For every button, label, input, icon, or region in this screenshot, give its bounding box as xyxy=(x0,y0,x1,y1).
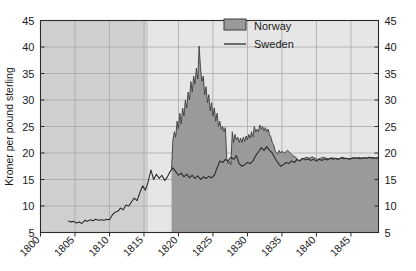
y-tick-label-right: 25 xyxy=(385,121,397,133)
legend-label-norway: Norway xyxy=(254,20,292,32)
x-tick-label: 1830 xyxy=(224,233,249,258)
y-tick-label-left: 20 xyxy=(22,147,34,159)
y-tick-label-left: 25 xyxy=(22,121,34,133)
chart-container: 51015202530354045 51015202530354045 1800… xyxy=(0,0,416,271)
x-tick-label: 1810 xyxy=(86,233,111,258)
y-tick-label-right: 20 xyxy=(385,147,397,159)
legend-label-sweden: Sweden xyxy=(254,38,294,50)
y-tick-label-right: 10 xyxy=(385,200,397,212)
y-tick-label-left: 10 xyxy=(22,200,34,212)
y-tick-label-right: 30 xyxy=(385,94,397,106)
y-tick-label-right: 35 xyxy=(385,68,397,80)
y-tick-label-left: 45 xyxy=(22,15,34,27)
y-axis-tick-labels-right: 51015202530354045 xyxy=(385,15,397,239)
y-tick-label-right: 15 xyxy=(385,174,397,186)
x-tick-label: 1820 xyxy=(155,233,180,258)
y-tick-label-left: 40 xyxy=(22,41,34,53)
y-axis-title: Kroner per pound sterling xyxy=(3,67,15,186)
x-tick-label: 1805 xyxy=(51,233,76,258)
y-tick-label-left: 30 xyxy=(22,94,34,106)
x-axis-tick-labels: 1800180518101815182018251830183518401845 xyxy=(17,233,353,258)
norway-legend-swatch xyxy=(224,19,246,30)
x-tick-label: 1815 xyxy=(120,233,145,258)
x-tick-label: 1845 xyxy=(327,233,352,258)
x-tick-label: 1825 xyxy=(189,233,214,258)
y-tick-label-left: 15 xyxy=(22,174,34,186)
chart-figure: 51015202530354045 51015202530354045 1800… xyxy=(0,0,416,271)
x-tick-label: 1840 xyxy=(293,233,318,258)
y-tick-label-left: 35 xyxy=(22,68,34,80)
y-tick-label-right: 40 xyxy=(385,41,397,53)
x-tick-label: 1800 xyxy=(17,233,42,258)
y-tick-label-right: 45 xyxy=(385,15,397,27)
x-tick-label: 1835 xyxy=(258,233,283,258)
y-tick-label-right: 5 xyxy=(385,227,391,239)
y-axis-tick-labels-left: 51015202530354045 xyxy=(22,15,34,239)
